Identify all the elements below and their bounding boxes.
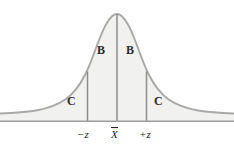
region-label-b-right: B	[126, 44, 134, 56]
normal-distribution-figure: B B C C −z X +z	[0, 0, 234, 146]
normal-curve-graphic	[0, 0, 234, 146]
axis-tick-label-plus-z: +z	[139, 129, 151, 140]
region-label-b-left: B	[97, 44, 105, 56]
axis-tick-label-minus-z: −z	[77, 129, 89, 140]
x-bar-overbar-text: X	[111, 127, 118, 140]
region-label-c-left: C	[67, 95, 76, 107]
region-label-c-right: C	[154, 95, 163, 107]
axis-tick-label-mean: X	[111, 127, 118, 140]
